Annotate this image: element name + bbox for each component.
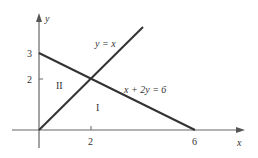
y-tick-label-2: 2	[27, 74, 32, 85]
y-tick-label-3: 3	[27, 48, 32, 59]
x-tick-label-6: 6	[192, 136, 197, 147]
region-label-II: II	[56, 80, 63, 91]
line-label-x-plus-2y-eq-6: x + 2y = 6	[123, 84, 166, 95]
x-axis-label: x	[236, 137, 242, 148]
y-axis-label: y	[44, 13, 50, 24]
line-y-eq-x	[39, 27, 143, 130]
line-label-y-eq-x: y = x	[94, 38, 116, 49]
region-label-I: I	[96, 102, 99, 113]
x-tick-label-2: 2	[88, 136, 93, 147]
x-axis-arrow-icon	[236, 127, 245, 133]
y-axis-arrow-icon	[36, 13, 42, 22]
line-x-plus-2y-eq-6	[39, 53, 195, 130]
coordinate-diagram: y x 3 2 2 6 y = x x + 2y = 6 II I	[0, 0, 258, 158]
